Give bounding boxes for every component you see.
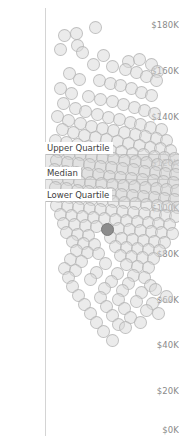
label-median[interactable]: Median [45,167,81,179]
data-point[interactable] [150,74,163,87]
data-point[interactable] [79,105,92,118]
data-point[interactable] [134,316,147,329]
data-point[interactable] [87,58,100,71]
data-point[interactable] [145,89,158,102]
data-point[interactable] [76,46,89,59]
data-point[interactable] [73,73,86,86]
data-point[interactable] [160,290,173,303]
plot-area [46,0,179,441]
data-point[interactable] [89,21,102,34]
chart-canvas: $180K$160K$140K$120K$100K$80K$60K$40K$20… [0,0,179,441]
data-point[interactable] [106,334,119,347]
data-point[interactable] [133,53,146,66]
data-point[interactable] [152,307,165,320]
highlighted-data-point[interactable] [101,223,114,236]
data-point[interactable] [58,29,71,42]
data-point[interactable] [84,273,97,286]
data-point[interactable] [70,27,83,40]
label-upper-quartile[interactable]: Upper Quartile [45,142,113,154]
data-point[interactable] [94,93,107,106]
data-point[interactable] [106,60,119,73]
data-point[interactable] [148,107,161,120]
data-point[interactable] [82,90,95,103]
data-point[interactable] [54,43,67,56]
label-lower-quartile[interactable]: Lower Quartile [45,189,112,201]
data-point[interactable] [140,304,153,317]
data-point[interactable] [119,321,132,334]
data-point[interactable] [57,97,70,110]
